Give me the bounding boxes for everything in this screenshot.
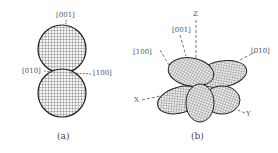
label-a-001: [001] xyxy=(56,11,75,19)
label-b-z-axis: Z xyxy=(193,10,198,18)
panel-b-lobes xyxy=(142,20,255,122)
label-a-100: [100] xyxy=(93,69,112,77)
label-b-001: [001] xyxy=(172,26,191,34)
label-b-x-axis: X xyxy=(134,96,139,104)
label-b-100: [100] xyxy=(133,48,152,56)
figure-canvas xyxy=(0,0,278,153)
caption-a: (a) xyxy=(57,131,69,141)
label-b-y-axis: Y xyxy=(246,110,251,118)
label-a-010: [010] xyxy=(22,67,41,75)
caption-b: (b) xyxy=(191,131,204,141)
label-b-010: [010] xyxy=(251,47,270,55)
panel-a-lobes xyxy=(38,20,92,117)
